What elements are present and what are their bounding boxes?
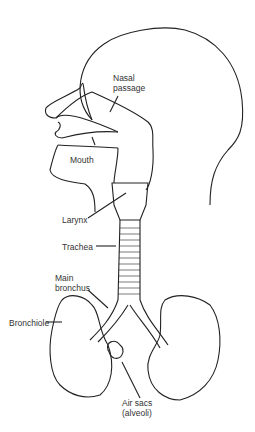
- label-line: Main: [55, 273, 90, 283]
- label-line: Nasal: [113, 73, 145, 83]
- right-lung-cluster: [148, 296, 220, 400]
- label-main-bronchus: Main bronchus: [55, 273, 90, 293]
- label-line: bronchus: [55, 283, 90, 293]
- lips: [55, 122, 118, 138]
- label-line: (alveoli): [122, 408, 152, 418]
- label-mouth: Mouth: [70, 155, 94, 165]
- label-bronchiole: Bronchiole: [9, 318, 49, 328]
- left-lung-cluster: [50, 296, 112, 397]
- label-larynx: Larynx: [62, 215, 88, 225]
- larynx: [112, 183, 148, 220]
- label-line: passage: [113, 83, 145, 93]
- label-air-sacs: Air sacs (alveoli): [122, 398, 152, 418]
- respiratory-diagram: [0, 0, 255, 432]
- palate: [56, 115, 118, 132]
- label-line: Air sacs: [122, 398, 152, 408]
- label-nasal-passage: Nasal passage: [113, 73, 145, 93]
- nasal-cavity: [56, 92, 153, 190]
- label-trachea: Trachea: [62, 242, 93, 252]
- face-profile: [45, 83, 92, 120]
- head-outline: [80, 28, 243, 205]
- main-bronchi: [90, 300, 168, 348]
